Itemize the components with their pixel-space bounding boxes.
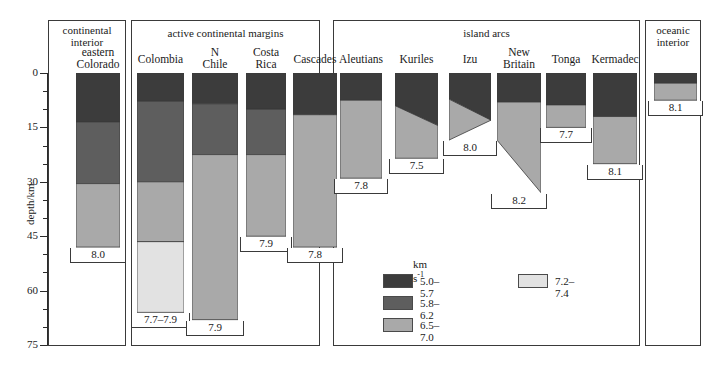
column-title: Aleutians bbox=[332, 53, 390, 65]
axis-tick-minor bbox=[43, 109, 47, 110]
layer-6.5–7.0 bbox=[340, 100, 382, 178]
layer-5.0–5.7 bbox=[246, 73, 286, 109]
layer-6.5–7.0 bbox=[246, 155, 286, 237]
mantle-velocity-label: 7.8 bbox=[287, 248, 343, 263]
mantle-velocity-label: 7.5 bbox=[389, 159, 444, 174]
layer-6.5–7.0 bbox=[654, 83, 697, 100]
mantle-velocity-label: 7.9 bbox=[240, 237, 292, 252]
axis-tick-minor bbox=[43, 254, 47, 255]
panel-oceanic-interior bbox=[645, 20, 701, 345]
layer-5.8–6.2 bbox=[246, 109, 286, 154]
axis-tick-minor bbox=[43, 309, 47, 310]
mantle-velocity-label: 7.7–7.9 bbox=[131, 313, 190, 328]
crustal-column-bar bbox=[395, 73, 438, 160]
column-title: Kermadec bbox=[585, 53, 645, 65]
layer-7.2–7.4 bbox=[137, 242, 184, 313]
legend-label: 5.0–5.7 bbox=[420, 275, 439, 299]
column-title: Colombia bbox=[129, 53, 192, 65]
mantle-velocity-label: 8.1 bbox=[648, 101, 703, 116]
axis-tick-major bbox=[40, 73, 47, 74]
frame-bottom-line bbox=[47, 345, 126, 346]
layer-5.0–5.7 bbox=[137, 73, 184, 101]
axis-tick-minor bbox=[43, 146, 47, 147]
axis-tick-label: 45 bbox=[12, 229, 38, 241]
crustal-column-bar bbox=[192, 73, 238, 322]
mantle-velocity-label: 7.8 bbox=[334, 179, 388, 194]
axis-tick-minor bbox=[43, 272, 47, 273]
layer-6.5–7.0 bbox=[593, 117, 637, 164]
layer-6.5–7.0 bbox=[192, 155, 238, 320]
crustal-structure-figure: depth/km 01530456075 continental interio… bbox=[0, 0, 703, 375]
axis-tick-label: 15 bbox=[12, 120, 38, 132]
axis-tick-label: 0 bbox=[12, 66, 38, 78]
legend-swatch bbox=[383, 274, 413, 288]
mantle-velocity-label: 7.7 bbox=[540, 128, 592, 143]
layer-5.0–5.7 bbox=[546, 73, 586, 105]
layer-6.5–7.0 bbox=[293, 115, 337, 247]
depth-axis-title: depth/km bbox=[24, 183, 36, 225]
column-title: N Chile bbox=[184, 46, 246, 70]
frame-bottom-line bbox=[131, 345, 320, 346]
column-title: Kuriles bbox=[387, 53, 446, 65]
layer-5.0–5.7 bbox=[654, 73, 697, 83]
crustal-column-bar bbox=[546, 73, 586, 129]
group-title-oceanic-interior: oceanic interior bbox=[645, 24, 701, 48]
panel-top-border bbox=[48, 20, 126, 21]
axis-tick-label: 60 bbox=[12, 284, 38, 296]
mantle-velocity-label: 8.0 bbox=[443, 141, 497, 156]
layer-5.0–5.7 bbox=[76, 73, 120, 122]
axis-tick-major bbox=[40, 345, 47, 346]
crustal-column-bar bbox=[593, 73, 637, 166]
crustal-column-bar bbox=[449, 73, 491, 142]
axis-tick-minor bbox=[43, 200, 47, 201]
frame-bottom-line bbox=[645, 345, 701, 346]
panel-top-border bbox=[333, 20, 640, 21]
group-title-island-arcs: island arcs bbox=[333, 27, 640, 39]
crustal-column-bar bbox=[76, 73, 120, 249]
crustal-column-bar bbox=[246, 73, 286, 238]
layer-5.0–5.7 bbox=[593, 73, 637, 117]
axis-tick-major bbox=[40, 127, 47, 128]
crustal-column-bar bbox=[497, 73, 541, 195]
column-title: eastern Colorado bbox=[68, 46, 128, 70]
crustal-column-bar bbox=[654, 73, 697, 102]
axis-tick-label: 30 bbox=[12, 175, 38, 187]
crustal-column-bar bbox=[340, 73, 382, 180]
axis-tick-major bbox=[40, 182, 47, 183]
group-title-active-continental-margins: active continental margins bbox=[131, 27, 320, 39]
mantle-velocity-label: 8.2 bbox=[491, 194, 547, 209]
panel-top-border bbox=[645, 20, 701, 21]
axis-tick-minor bbox=[43, 218, 47, 219]
legend-label: 7.2–7.4 bbox=[555, 275, 574, 299]
crustal-column-bar bbox=[137, 73, 184, 314]
axis-tick-major bbox=[40, 291, 47, 292]
legend-swatch bbox=[383, 296, 413, 310]
layer-5.8–6.2 bbox=[76, 122, 120, 184]
layer-5.0–5.7 bbox=[497, 73, 541, 102]
axis-tick-minor bbox=[43, 91, 47, 92]
axis-tick-minor bbox=[43, 327, 47, 328]
layer-6.5–7.0 bbox=[497, 102, 541, 193]
mantle-velocity-label: 7.9 bbox=[186, 321, 244, 336]
legend-label: 6.5–7.0 bbox=[420, 319, 439, 343]
layer-6.5–7.0 bbox=[76, 184, 120, 247]
layer-6.5–7.0 bbox=[546, 105, 586, 127]
axis-tick-minor bbox=[43, 164, 47, 165]
layer-5.0–5.7 bbox=[293, 73, 337, 115]
mantle-velocity-label: 8.0 bbox=[70, 248, 126, 263]
layer-5.8–6.2 bbox=[137, 101, 184, 182]
axis-tick-label: 75 bbox=[12, 338, 38, 350]
legend-swatch bbox=[518, 274, 548, 288]
layer-6.5–7.0 bbox=[137, 182, 184, 242]
crustal-column-bar bbox=[293, 73, 337, 249]
layer-5.0–5.7 bbox=[192, 73, 238, 104]
layer-5.0–5.7 bbox=[340, 73, 382, 100]
panel-top-border bbox=[131, 20, 320, 21]
mantle-velocity-label: 8.1 bbox=[587, 165, 643, 180]
axis-tick-major bbox=[40, 236, 47, 237]
group-title-continental-interior: continental interior bbox=[48, 24, 126, 48]
frame-bottom-line bbox=[333, 345, 640, 346]
layer-5.8–6.2 bbox=[192, 104, 238, 155]
legend-swatch bbox=[383, 318, 413, 332]
legend-label: 5.8–6.2 bbox=[420, 297, 439, 321]
